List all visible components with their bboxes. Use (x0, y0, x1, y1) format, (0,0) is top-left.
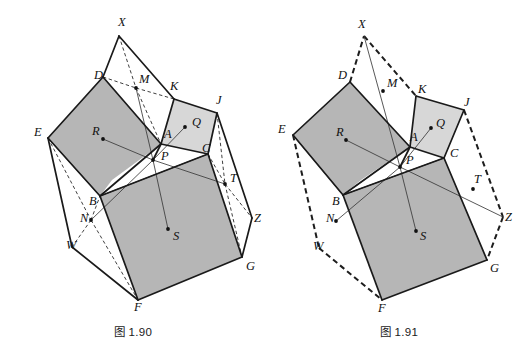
label-E: E (33, 125, 42, 139)
label-X-r: X (357, 17, 367, 31)
figure-caption-1-91: 图 1.91 (266, 323, 532, 339)
label-Q: Q (192, 115, 201, 129)
figure-caption-1-90: 图 1.90 (0, 323, 266, 339)
label-B-r: B (332, 194, 340, 208)
label-Q-r: Q (436, 116, 445, 130)
label-R: R (91, 124, 100, 138)
point-R (101, 137, 105, 141)
label-W-r: W (313, 239, 325, 253)
label-A: A (163, 127, 172, 141)
label-C: C (202, 141, 211, 155)
label-K-r: K (417, 82, 427, 96)
label-K: K (169, 79, 179, 93)
label-A-r: A (409, 130, 418, 144)
label-Z-r: Z (505, 210, 513, 224)
label-P: P (160, 149, 169, 163)
figure-1-91-canvas: X D M K J E R Q A P C T B N Z W S G F (266, 0, 532, 357)
label-W: W (66, 238, 78, 252)
point-Q-r (429, 126, 433, 130)
label-F-r: F (377, 301, 386, 315)
figure-page: X D M K J E R Q A P C T B N Z W S G F 图 (0, 0, 532, 357)
label-M-r: M (386, 76, 398, 90)
label-T: T (230, 171, 238, 185)
figure-1-90: X D M K J E R Q A P C T B N Z W S G F 图 (0, 0, 266, 357)
point-S-r (414, 229, 418, 233)
point-P-r (398, 165, 402, 169)
point-T (223, 182, 227, 186)
figure-1-90-canvas: X D M K J E R Q A P C T B N Z W S G F (0, 0, 266, 357)
label-D-r: D (337, 68, 347, 82)
point-Q (183, 125, 187, 129)
label-E-r: E (277, 122, 286, 136)
label-J-r: J (464, 95, 471, 109)
point-M (134, 86, 138, 90)
point-P (151, 158, 155, 162)
point-T-r (471, 187, 475, 191)
label-G-r: G (490, 261, 499, 275)
label-C-r: C (450, 146, 459, 160)
dash-D-X-r (350, 36, 364, 82)
label-S-r: S (420, 229, 427, 243)
label-D: D (93, 68, 103, 82)
label-Z: Z (254, 211, 262, 225)
point-N (89, 218, 93, 222)
label-M: M (138, 72, 150, 86)
label-R-r: R (335, 125, 344, 139)
point-M-r (381, 89, 385, 93)
label-S: S (173, 229, 180, 243)
point-R-r (344, 138, 348, 142)
label-B: B (89, 194, 97, 208)
label-N-r: N (325, 211, 335, 225)
dash-Z-G-r (487, 217, 503, 260)
label-N: N (79, 211, 89, 225)
label-G: G (246, 259, 255, 273)
label-J: J (216, 93, 223, 107)
label-X: X (117, 15, 127, 29)
point-S (166, 227, 170, 231)
label-T-r: T (474, 172, 482, 186)
point-N-r (334, 219, 338, 223)
label-P-r: P (405, 153, 414, 167)
label-F: F (133, 300, 142, 314)
figure-1-91: X D M K J E R Q A P C T B N Z W S G F 图 (266, 0, 532, 357)
